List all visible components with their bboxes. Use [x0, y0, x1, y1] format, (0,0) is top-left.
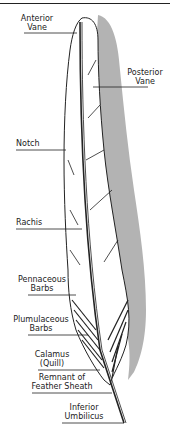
label-line: Barbs [10, 324, 72, 333]
label-inferior-umbilicus: Inferior Umbilicus [62, 403, 106, 421]
label-anterior-vane: Anterior Vane [14, 14, 60, 32]
label-line: Posterior [120, 68, 170, 77]
label-pennaceous-barbs: Pennaceous Barbs [14, 275, 70, 293]
label-line: Pennaceous [14, 275, 70, 284]
label-rachis: Rachis [16, 218, 42, 227]
label-line: Calamus [30, 350, 74, 359]
label-line: (Quill) [30, 359, 74, 368]
label-line: Plumulaceous [10, 315, 72, 324]
label-line: Umbilicus [62, 412, 106, 421]
feather-illustration [0, 0, 170, 433]
label-line: Inferior [62, 403, 106, 412]
label-calamus: Calamus (Quill) [30, 350, 74, 368]
label-line: Remnant of [30, 373, 94, 382]
label-line: Barbs [14, 284, 70, 293]
label-notch: Notch [16, 139, 39, 148]
label-line: Vane [120, 77, 170, 86]
label-line: Feather Sheath [30, 382, 94, 391]
label-line: Anterior [14, 14, 60, 23]
label-posterior-vane: Posterior Vane [120, 68, 170, 86]
label-plumulaceous-barbs: Plumulaceous Barbs [10, 315, 72, 333]
label-remnant-feather-sheath: Remnant of Feather Sheath [30, 373, 94, 391]
label-line: Vane [14, 23, 60, 32]
